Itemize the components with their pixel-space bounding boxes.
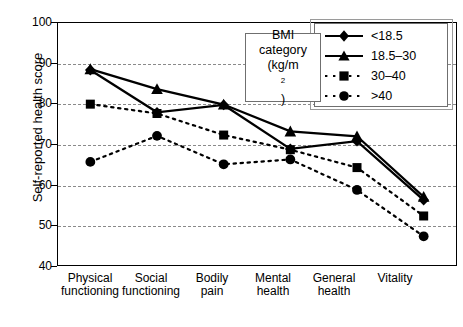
legend-label: <18.5 [367,29,403,43]
data-point [352,185,362,195]
diamond-marker-icon [321,27,367,45]
legend-title-line2: category [259,43,307,58]
data-point [85,157,95,167]
data-point [219,159,229,169]
series->40 [85,131,428,241]
legend-item-18-5-30[interactable]: 18.5–30 [321,46,416,66]
triangle-marker-icon [321,47,367,65]
data-point [419,231,429,241]
data-point [152,131,162,141]
data-point [86,100,95,109]
legend-units-suffix: ) [267,92,298,107]
square-marker-icon [321,67,367,85]
legend-label: 18.5–30 [367,49,416,63]
legend-item-30-40[interactable]: 30–40 [321,66,406,86]
legend-label: >40 [367,89,392,103]
legend: <18.5 18.5–30 30–40 [314,23,448,107]
data-point [353,163,362,172]
legend-units-exponent: 2 [281,76,285,85]
legend-item-lt-18-5[interactable]: <18.5 [321,26,403,46]
legend-title-line3: (kg/m2) [267,58,298,107]
legend-title-line1: BMI [272,28,294,43]
legend-title-box: BMI category (kg/m2) [245,33,321,102]
data-point [153,109,162,118]
data-point [219,131,228,140]
series-line [90,104,423,216]
legend-label: 30–40 [367,69,406,83]
legend-units-prefix: (kg/m [267,58,298,73]
data-point [285,155,295,165]
data-point [286,145,295,154]
legend-item-gt-40[interactable]: >40 [321,86,392,106]
data-point [419,211,428,220]
circle-marker-icon [321,87,367,105]
chart-root: Self-reported health score 100 90 80 70 … [0,0,463,327]
